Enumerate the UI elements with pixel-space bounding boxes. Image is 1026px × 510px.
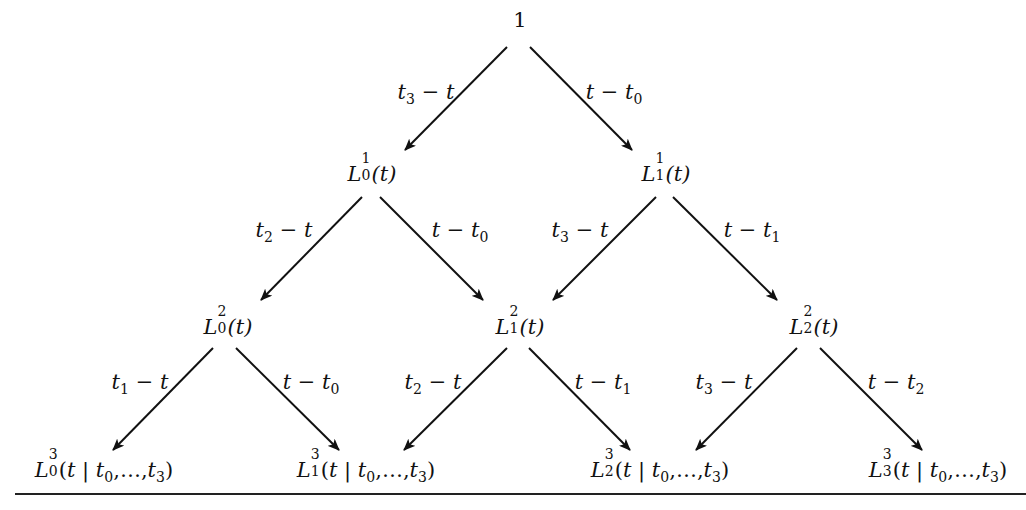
edge-L1_1-L2_2 <box>673 197 777 300</box>
edge-label-root-L1_1: t − t0 <box>586 82 643 106</box>
node-base: L <box>591 458 605 482</box>
node-L3_2: L32(t | t0,…,t3) <box>591 456 729 484</box>
node-base: L <box>204 315 218 339</box>
given-bar: | <box>75 458 95 482</box>
var-t0: t <box>358 458 366 482</box>
node-subscript: 1 <box>510 321 519 335</box>
sub-3: 3 <box>156 469 165 485</box>
paren-open: ( <box>893 458 901 482</box>
node-base: L <box>297 458 311 482</box>
node-subscript: 2 <box>804 321 813 335</box>
node-L2_0: L20(t) <box>204 313 253 338</box>
node-base: L <box>496 315 510 339</box>
edge-label-L2_0-L3_1: t − t0 <box>283 372 340 396</box>
node-base: L <box>348 162 362 186</box>
ellipsis: ,…, <box>947 458 981 482</box>
ellipsis: ,…, <box>113 458 147 482</box>
edge-L2_1-L3_1 <box>404 348 507 450</box>
node-superscript: 2 <box>510 304 519 318</box>
var-t3: t <box>982 458 990 482</box>
given-bar: | <box>909 458 929 482</box>
var-t: t <box>67 458 75 482</box>
node-L3_3: L33(t | t0,…,t3) <box>869 456 1007 484</box>
node-superscript: 2 <box>218 304 227 318</box>
node-L1_0: L10(t) <box>348 160 397 185</box>
node-argument: (t) <box>520 315 545 339</box>
edge-L2_1-L3_2 <box>529 348 630 450</box>
node-argument: (t) <box>228 315 253 339</box>
node-subscript: 0 <box>49 464 58 478</box>
edge-label-L2_2-L3_2: t3 − t <box>696 372 753 396</box>
given-bar: | <box>631 458 651 482</box>
paren-close: ) <box>721 458 729 482</box>
node-subscript: 0 <box>218 321 227 335</box>
bottom-rule <box>15 493 1026 495</box>
tree-edges <box>0 0 1026 510</box>
var-t0: t <box>96 458 104 482</box>
paren-close: ) <box>999 458 1007 482</box>
node-superscript: 3 <box>49 447 58 461</box>
node-superscript: 3 <box>883 447 892 461</box>
paren-close: ) <box>165 458 173 482</box>
node-L3_1: L31(t | t0,…,t3) <box>297 456 435 484</box>
var-t3: t <box>410 458 418 482</box>
node-subscript: 2 <box>605 464 614 478</box>
var-t: t <box>329 458 337 482</box>
node-root: 1 <box>513 10 526 31</box>
node-L2_1: L21(t) <box>496 313 545 338</box>
edge-label-L1_1-L2_1: t3 − t <box>552 220 609 244</box>
ellipsis: ,…, <box>375 458 409 482</box>
node-base: L <box>869 458 883 482</box>
edge-label-root-L1_0: t3 − t <box>398 82 455 106</box>
sub-3: 3 <box>990 469 999 485</box>
node-superscript: 1 <box>656 151 665 165</box>
node-L3_0: L30(t | t0,…,t3) <box>35 456 173 484</box>
node-subscript: 0 <box>362 168 371 182</box>
paren-close: ) <box>427 458 435 482</box>
var-t3: t <box>704 458 712 482</box>
node-L1_1: L11(t) <box>642 160 691 185</box>
edge-label-L1_0-L2_1: t − t0 <box>432 220 489 244</box>
edge-label-L1_0-L2_0: t2 − t <box>256 220 313 244</box>
edge-L1_0-L2_1 <box>380 197 483 300</box>
node-base: L <box>790 315 804 339</box>
edge-label-L2_1-L3_1: t2 − t <box>405 372 462 396</box>
sub-3: 3 <box>712 469 721 485</box>
node-superscript: 3 <box>605 447 614 461</box>
given-bar: | <box>337 458 357 482</box>
edge-L2_2-L3_2 <box>696 348 797 450</box>
paren-open: ( <box>59 458 67 482</box>
edge-L2_0-L3_0 <box>113 348 213 450</box>
node-superscript: 1 <box>362 151 371 165</box>
var-t: t <box>623 458 631 482</box>
node-argument: (t) <box>666 162 691 186</box>
root-label: 1 <box>513 8 526 32</box>
sub-3: 3 <box>418 469 427 485</box>
edge-label-L2_1-L3_2: t − t1 <box>575 372 632 396</box>
node-subscript: 1 <box>311 464 320 478</box>
ellipsis: ,…, <box>669 458 703 482</box>
edge-L1_0-L2_0 <box>261 197 362 300</box>
edge-label-L2_0-L3_0: t1 − t <box>112 372 169 396</box>
node-base: L <box>35 458 49 482</box>
edge-L1_1-L2_1 <box>553 197 656 300</box>
node-base: L <box>642 162 656 186</box>
edge-label-L2_2-L3_3: t − t2 <box>868 372 925 396</box>
var-t: t <box>901 458 909 482</box>
node-subscript: 3 <box>883 464 892 478</box>
paren-open: ( <box>321 458 329 482</box>
node-argument: (t) <box>814 315 839 339</box>
var-t3: t <box>148 458 156 482</box>
node-subscript: 1 <box>656 168 665 182</box>
var-t0: t <box>930 458 938 482</box>
var-t0: t <box>652 458 660 482</box>
node-L2_2: L22(t) <box>790 313 839 338</box>
edge-label-L1_1-L2_2: t − t1 <box>724 220 781 244</box>
edge-L2_2-L3_3 <box>820 348 922 450</box>
node-superscript: 2 <box>804 304 813 318</box>
node-argument: (t) <box>372 162 397 186</box>
edge-L2_0-L3_1 <box>236 348 339 450</box>
node-superscript: 3 <box>311 447 320 461</box>
paren-open: ( <box>615 458 623 482</box>
